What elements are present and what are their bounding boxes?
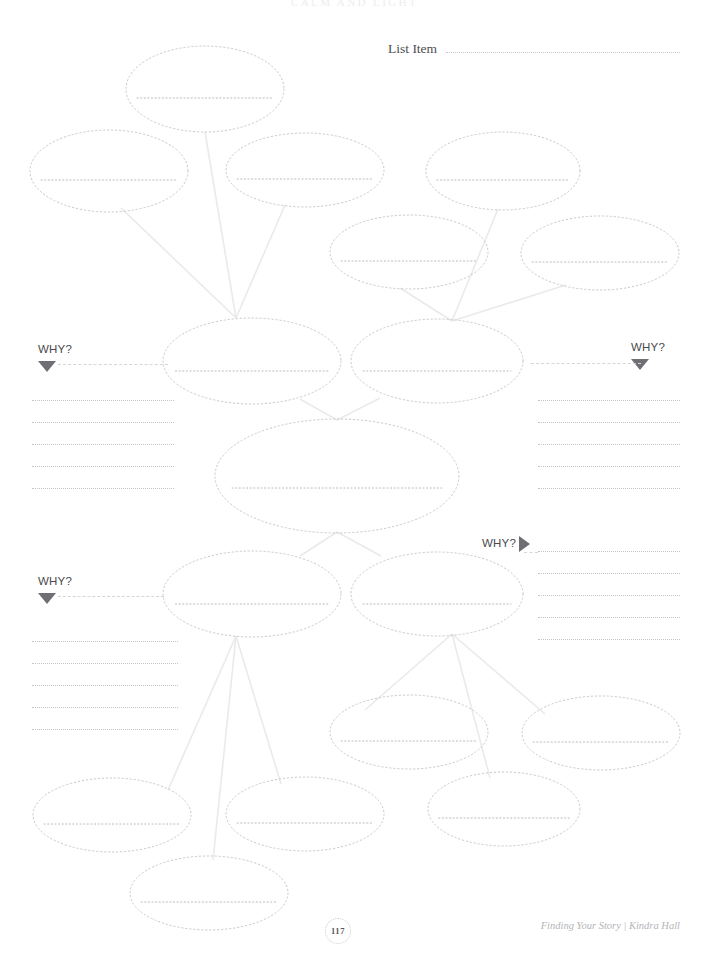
note-write-line[interactable] xyxy=(538,444,680,445)
note-write-line[interactable] xyxy=(538,551,680,552)
mindmap-node[interactable] xyxy=(521,216,679,290)
mindmap-node[interactable] xyxy=(163,318,341,404)
triangle-down-icon xyxy=(631,359,649,370)
mindmap-connector xyxy=(213,636,236,860)
mindmap-node[interactable] xyxy=(351,319,523,403)
node-outline xyxy=(426,132,580,210)
why-label: WHY? xyxy=(38,576,72,588)
list-item-write-line[interactable] xyxy=(446,43,680,53)
note-write-line[interactable] xyxy=(538,466,680,467)
triangle-down-icon xyxy=(38,361,56,372)
note-write-line[interactable] xyxy=(32,466,174,467)
why-label: WHY? xyxy=(38,344,72,356)
mindmap-node[interactable] xyxy=(130,856,288,930)
page-number-badge: 117 xyxy=(325,918,351,944)
node-outline xyxy=(163,318,341,404)
note-write-line[interactable] xyxy=(538,595,680,596)
node-outline xyxy=(226,133,384,207)
notes-bottom-left xyxy=(32,641,178,730)
triangle-right-icon xyxy=(519,536,530,552)
note-write-line[interactable] xyxy=(538,488,680,489)
mindmap-node[interactable] xyxy=(226,777,384,851)
node-outline xyxy=(351,552,523,636)
notes-top-right xyxy=(538,400,680,489)
why-label: WHY? xyxy=(482,538,516,550)
mindmap-connector xyxy=(337,398,380,420)
node-outline xyxy=(33,778,191,852)
mindmap-node[interactable] xyxy=(426,132,580,210)
mindmap-connector xyxy=(205,132,236,318)
mindmap-connector xyxy=(452,634,490,778)
mindmap-node[interactable] xyxy=(330,215,488,289)
notes-bottom-right xyxy=(538,551,680,640)
node-outline xyxy=(351,319,523,403)
worksheet-page: CALM AND LIGHT List Item WHY?WHY?WHY?WHY… xyxy=(0,0,709,962)
note-write-line[interactable] xyxy=(32,663,178,664)
node-outline xyxy=(522,696,680,770)
note-write-line[interactable] xyxy=(32,729,178,730)
note-write-line[interactable] xyxy=(32,707,178,708)
mindmap-node[interactable] xyxy=(163,551,341,637)
chapter-title: CALM AND LIGHT xyxy=(0,0,709,8)
node-outline xyxy=(30,130,188,212)
node-outline xyxy=(521,216,679,290)
why-leader-bottom-left xyxy=(58,596,164,597)
mindmap-node[interactable] xyxy=(33,778,191,852)
mindmap-connector xyxy=(400,288,452,321)
mindmap-connector xyxy=(452,285,566,321)
node-outline xyxy=(330,695,488,769)
note-write-line[interactable] xyxy=(32,641,178,642)
note-write-line[interactable] xyxy=(538,639,680,640)
list-item-label: List Item xyxy=(388,41,437,57)
node-outline xyxy=(428,772,580,846)
why-leader-mid-right xyxy=(524,552,538,553)
note-write-line[interactable] xyxy=(32,488,174,489)
book-attribution: Finding Your Story | Kindra Hall xyxy=(541,920,680,931)
mindmap-node[interactable] xyxy=(30,130,188,212)
node-outline xyxy=(130,856,288,930)
note-write-line[interactable] xyxy=(32,444,174,445)
mindmap-connector xyxy=(452,634,545,714)
node-outline xyxy=(126,46,284,132)
mindmap-node[interactable] xyxy=(351,552,523,636)
mindmap-node[interactable] xyxy=(330,695,488,769)
why-leader-top-left xyxy=(58,364,168,365)
why-leader-top-right xyxy=(531,363,641,364)
mindmap-connector xyxy=(168,636,236,790)
why-bottom-left[interactable]: WHY? xyxy=(38,576,72,604)
node-outline xyxy=(163,551,341,637)
mindmap-connector xyxy=(236,205,285,318)
triangle-down-icon xyxy=(38,593,56,604)
mindmap-connector xyxy=(300,399,337,420)
note-write-line[interactable] xyxy=(538,573,680,574)
why-mid-right[interactable]: WHY? xyxy=(482,536,530,549)
mindmap-connector xyxy=(452,209,498,321)
why-label: WHY? xyxy=(631,342,665,354)
mindmap-node[interactable] xyxy=(215,419,459,533)
note-write-line[interactable] xyxy=(32,422,174,423)
note-write-line[interactable] xyxy=(538,400,680,401)
list-item-row[interactable]: List Item xyxy=(388,41,680,57)
mindmap-node[interactable] xyxy=(522,696,680,770)
node-outline xyxy=(215,419,459,533)
notes-top-left xyxy=(32,400,174,489)
note-write-line[interactable] xyxy=(32,400,174,401)
mindmap-connector xyxy=(337,532,381,556)
why-top-right[interactable]: WHY? xyxy=(631,342,665,370)
note-write-line[interactable] xyxy=(32,685,178,686)
mindmap-connector xyxy=(121,208,236,318)
note-write-line[interactable] xyxy=(538,617,680,618)
mindmap-node[interactable] xyxy=(226,133,384,207)
mindmap-connector xyxy=(236,636,281,784)
connector-layer xyxy=(121,132,566,860)
node-outline xyxy=(330,215,488,289)
note-write-line[interactable] xyxy=(538,422,680,423)
why-top-left[interactable]: WHY? xyxy=(38,344,72,372)
node-outline xyxy=(226,777,384,851)
mindmap-node[interactable] xyxy=(126,46,284,132)
mindmap-connector xyxy=(365,634,452,710)
mindmap-node[interactable] xyxy=(428,772,580,846)
mindmap-connector xyxy=(300,532,337,556)
